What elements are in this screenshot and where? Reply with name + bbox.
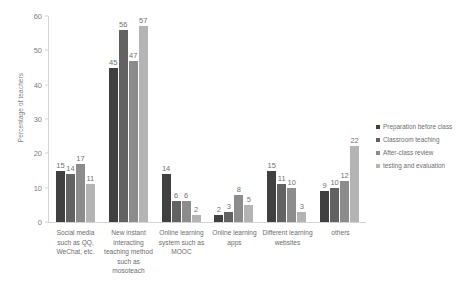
legend-swatch-icon: [376, 164, 380, 168]
bar[interactable]: [66, 174, 75, 222]
bar-column[interactable]: 6: [182, 16, 191, 222]
bar[interactable]: [330, 188, 339, 222]
y-axis-tick-label: 20: [34, 149, 42, 158]
bar[interactable]: [172, 201, 181, 222]
bar-value-label: 11: [278, 174, 286, 183]
bar-column[interactable]: 10: [287, 16, 296, 222]
legend-label: testing and evaluation: [383, 162, 445, 169]
y-axis-tick-label: 40: [34, 80, 42, 89]
bar[interactable]: [139, 26, 148, 222]
bar-inner: 11: [86, 184, 95, 222]
bar[interactable]: [340, 181, 349, 222]
bar-value-label: 5: [247, 195, 251, 204]
bar-value-label: 15: [56, 161, 64, 170]
bar-column[interactable]: 11: [86, 16, 95, 222]
bar[interactable]: [76, 164, 85, 222]
bar-value-label: 47: [129, 51, 137, 60]
bar-inner: 3: [224, 212, 233, 222]
plot-area: 0102030405060 15141711455647571466223851…: [48, 16, 366, 223]
bar-column[interactable]: 57: [139, 16, 148, 222]
bar[interactable]: [244, 205, 253, 222]
bar[interactable]: [119, 30, 128, 222]
bar-column[interactable]: 14: [162, 16, 171, 222]
bar-value-label: 22: [350, 136, 358, 145]
legend-label: Classroom teaching: [383, 136, 439, 143]
bar-column[interactable]: 14: [66, 16, 75, 222]
bar-value-label: 9: [322, 181, 326, 190]
bar[interactable]: [182, 201, 191, 222]
bar-value-label: 6: [174, 191, 178, 200]
bar-inner: 57: [139, 26, 148, 222]
bar-column[interactable]: 12: [340, 16, 349, 222]
x-axis-line: [48, 222, 366, 223]
bar[interactable]: [162, 174, 171, 222]
legend-label: Preparation before class: [383, 123, 452, 130]
bar-column[interactable]: 2: [214, 16, 223, 222]
bar-inner: 45: [109, 68, 118, 223]
bar[interactable]: [129, 61, 138, 222]
legend-swatch-icon: [376, 138, 380, 142]
y-axis-tick-mark: [45, 84, 48, 85]
bar-group: 2385: [207, 16, 260, 222]
bar-groups: 151417114556475714662238515111039101222: [49, 16, 366, 222]
bar[interactable]: [287, 188, 296, 222]
y-axis-tick-mark: [45, 50, 48, 51]
bar[interactable]: [56, 171, 65, 223]
bar-inner: 15: [267, 171, 276, 223]
bar-group-bars: 14662: [155, 16, 208, 222]
legend-item[interactable]: Classroom teaching: [376, 133, 474, 146]
bar-column[interactable]: 2: [192, 16, 201, 222]
bar-column[interactable]: 5: [244, 16, 253, 222]
bar-column[interactable]: 3: [297, 16, 306, 222]
bar-column[interactable]: 17: [76, 16, 85, 222]
x-axis-category-label: Different learning websites: [261, 228, 314, 276]
legend-swatch-icon: [376, 151, 380, 155]
legend-item[interactable]: After-class review: [376, 146, 474, 159]
bar-group-bars: 9101222: [313, 16, 366, 222]
bar-group-bars: 15141711: [49, 16, 102, 222]
bar-column[interactable]: 11: [277, 16, 286, 222]
bar-value-label: 2: [217, 205, 221, 214]
legend-item[interactable]: Preparation before class: [376, 120, 474, 133]
bar[interactable]: [267, 171, 276, 223]
bar-inner: 56: [119, 30, 128, 222]
bar[interactable]: [234, 195, 243, 222]
bar[interactable]: [109, 68, 118, 223]
bar-column[interactable]: 9: [320, 16, 329, 222]
bar-inner: 15: [56, 171, 65, 223]
y-axis-tick-mark: [45, 153, 48, 154]
bar-inner: 17: [76, 164, 85, 222]
bar-column[interactable]: 15: [267, 16, 276, 222]
bar[interactable]: [297, 212, 306, 222]
y-axis-tick-label: 30: [34, 115, 42, 124]
chart-legend: Preparation before classClassroom teachi…: [376, 120, 474, 172]
bar-column[interactable]: 8: [234, 16, 243, 222]
bar-column[interactable]: 3: [224, 16, 233, 222]
bar[interactable]: [277, 184, 286, 222]
bar-value-label: 45: [109, 58, 117, 67]
bar-value-label: 10: [330, 178, 338, 187]
bar-column[interactable]: 6: [172, 16, 181, 222]
bar-column[interactable]: 56: [119, 16, 128, 222]
bar-inner: 5: [244, 205, 253, 222]
bar-column[interactable]: 15: [56, 16, 65, 222]
legend-item[interactable]: testing and evaluation: [376, 159, 474, 172]
bar[interactable]: [192, 215, 201, 222]
bar-group-bars: 45564757: [102, 16, 155, 222]
bar-value-label: 3: [227, 202, 231, 211]
bar-inner: 6: [182, 201, 191, 222]
bar-inner: 9: [320, 191, 329, 222]
bar-column[interactable]: 10: [330, 16, 339, 222]
bar-column[interactable]: 22: [350, 16, 359, 222]
bar-value-label: 6: [184, 191, 188, 200]
bar[interactable]: [320, 191, 329, 222]
bar-value-label: 3: [300, 202, 304, 211]
bar[interactable]: [350, 146, 359, 222]
bar[interactable]: [214, 215, 223, 222]
y-axis-tick-label: 10: [34, 183, 42, 192]
bar[interactable]: [224, 212, 233, 222]
bar-column[interactable]: 47: [129, 16, 138, 222]
bar-column[interactable]: 45: [109, 16, 118, 222]
bar[interactable]: [86, 184, 95, 222]
x-axis-category-label: Social media such as QQ, WeChat, etc.: [49, 228, 102, 276]
